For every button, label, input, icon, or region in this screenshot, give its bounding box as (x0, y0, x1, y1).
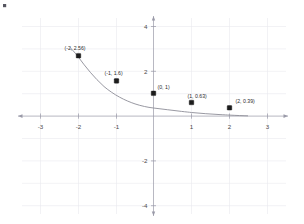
x-tick-label: 1 (190, 123, 194, 130)
x-axis-arrow-left-icon (18, 114, 23, 118)
y-tick-label: 2 (144, 68, 148, 75)
x-tick-label: -3 (38, 123, 44, 130)
x-tick-label: 2 (228, 123, 232, 130)
x-tick-label: -1 (114, 123, 120, 130)
y-tick-label: 4 (144, 23, 148, 30)
y-axis-arrow-icon (152, 16, 155, 20)
data-point-marker (76, 53, 81, 58)
data-point-marker (227, 106, 232, 111)
point-label: (-1, 1.6) (105, 70, 123, 76)
corner-mark-icon (3, 4, 6, 7)
point-label: (-2, 2.56) (65, 45, 86, 51)
y-axis-arrow-down-icon (152, 212, 155, 216)
point-labels: (-2, 2.56) (-1, 1.6) (0, 1) (1, 0.63) (2… (65, 45, 256, 104)
data-point-marker (189, 100, 194, 105)
x-tick-label: 3 (266, 123, 270, 130)
point-label: (1, 0.63) (188, 93, 208, 99)
point-label: (0, 1) (158, 84, 170, 90)
y-tick-label: -2 (142, 157, 148, 164)
chart-screenshot: -3 -2 -1 1 2 3 4 2 -2 -4 (-2, 2.56) (0, 0, 304, 224)
x-tick-label: -2 (76, 123, 82, 130)
data-point-marker (114, 79, 119, 84)
point-label: (2, 0.39) (236, 98, 256, 104)
exponential-decay-plot: -3 -2 -1 1 2 3 4 2 -2 -4 (-2, 2.56) (0, 0, 304, 224)
y-tick-label: -4 (142, 202, 148, 209)
exponential-curve (70, 47, 248, 115)
x-axis-arrow-icon (284, 114, 289, 118)
data-point-marker (151, 91, 156, 96)
